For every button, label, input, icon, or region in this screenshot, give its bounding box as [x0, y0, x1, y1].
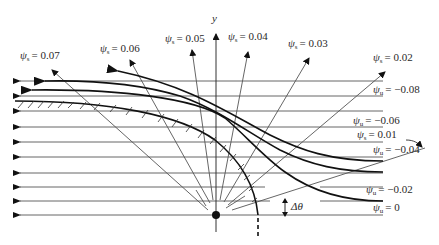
label-psi-u--0.06: ψu= −0.06: [353, 114, 400, 128]
radial-0.05: [192, 50, 213, 200]
label-psi-s-0.01: ψs= 0.01: [357, 128, 397, 142]
radial-short-2: [226, 196, 245, 208]
label-psi-s-0.04: ψs= 0.04: [228, 30, 268, 44]
wall-contour: [15, 101, 258, 215]
body-wall: [15, 101, 258, 238]
label-psi-s-0.07: ψs= 0.07: [20, 49, 60, 63]
delta-theta-annotation: Δθ: [282, 198, 303, 217]
radial-0.03: [224, 58, 309, 202]
label-psi-s-0.05: ψs= 0.05: [165, 32, 205, 46]
label-psi-s-0.02: ψs= 0.02: [373, 51, 413, 65]
streamline-diagram: y: [0, 0, 439, 245]
y-axis-label: y: [211, 12, 217, 24]
label-psi-u-0: ψu= 0: [373, 201, 400, 215]
label-psi-u--0.04: ψu= −0.04: [373, 143, 420, 157]
label-psi-s-0.06: ψs= 0.06: [100, 42, 140, 56]
horizontal-streamlines: [20, 81, 383, 215]
label-psi-u--0.08: ψu= −0.08: [373, 83, 420, 97]
label-psi-u--0.02: ψu= −0.02: [366, 183, 413, 197]
thick-streamline-3: [32, 90, 383, 201]
label-psi-s-0.03: ψs= 0.03: [288, 37, 328, 51]
y-axis: y: [211, 12, 217, 232]
source-point: [212, 211, 220, 219]
psi-u-labels: ψu= −0.08 ψu= −0.06 ψu= −0.04 ψu= −0.02 …: [353, 83, 420, 215]
delta-theta-label: Δθ: [290, 200, 303, 212]
thick-streamline-2: [45, 81, 383, 172]
